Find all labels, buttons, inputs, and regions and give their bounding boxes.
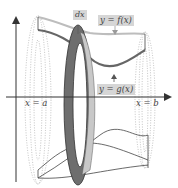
lower-curve-label: y = g(x) (97, 84, 135, 95)
dx-label: dx (73, 10, 87, 20)
right-bound-label: x = b (136, 99, 159, 108)
washer-method-diagram: dx y = f(x) y = g(x) x = a x = b (0, 0, 178, 188)
upper-curve-label: y = f(x) (98, 15, 134, 26)
washer-slice (64, 25, 95, 185)
left-bound-label: x = a (25, 99, 47, 108)
g-pointer-arrow-icon (111, 74, 117, 79)
y-axis-arrow-icon (12, 16, 20, 24)
x-axis-arrow-icon (164, 93, 172, 101)
diagram-canvas (0, 0, 178, 188)
